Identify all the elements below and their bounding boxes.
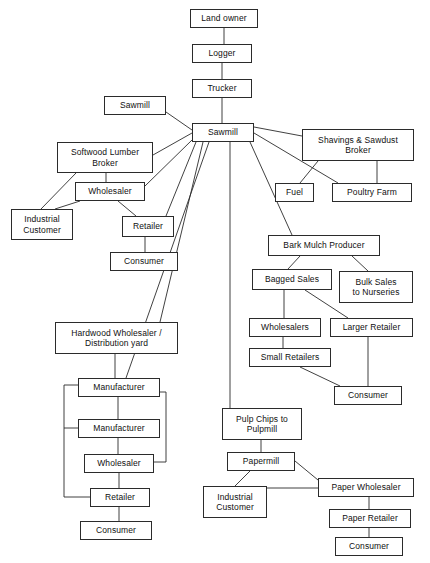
node-sawmill_hub[interactable]: Sawmill: [192, 123, 254, 142]
node-sawmill_small[interactable]: Sawmill: [104, 96, 166, 115]
node-retailer_hw[interactable]: Retailer: [90, 488, 150, 507]
node-consumer_bm[interactable]: Consumer: [334, 386, 402, 405]
node-bagged_sales[interactable]: Bagged Sales: [252, 269, 332, 290]
node-larger_retailer[interactable]: Larger Retailer: [330, 318, 413, 337]
connector-shavings_broker-to-fuel: [300, 161, 318, 183]
node-wholesaler_sw[interactable]: Wholesaler: [75, 182, 145, 201]
node-logger[interactable]: Logger: [192, 44, 252, 63]
connector-sawmill_hub-to-softwood_broker: [153, 133, 192, 155]
node-fuel[interactable]: Fuel: [275, 183, 314, 202]
node-industrial_cust_1[interactable]: Industrial Customer: [11, 209, 73, 240]
node-paper_retailer[interactable]: Paper Retailer: [329, 509, 411, 528]
node-bulk_sales[interactable]: Bulk Sales to Nurseries: [339, 271, 413, 303]
node-pulp_chips[interactable]: Pulp Chips to Pulpmill: [222, 408, 302, 440]
node-papermill[interactable]: Papermill: [227, 452, 295, 471]
connector-manufacturer_1-to-retailer_hw: [64, 385, 90, 497]
connector-papermill-to-industrial_cust_2: [235, 471, 250, 486]
flowchart-canvas: Land ownerLoggerTruckerSawmillSawmillSha…: [0, 0, 430, 563]
node-paper_wholesaler[interactable]: Paper Wholesaler: [318, 478, 414, 497]
node-wholesalers_bm[interactable]: Wholesalers: [249, 318, 321, 337]
node-bark_mulch[interactable]: Bark Mulch Producer: [268, 235, 380, 256]
node-wholesaler_hw[interactable]: Wholesaler: [84, 454, 154, 473]
node-hardwood_ws[interactable]: Hardwood Wholesaler / Distribution yard: [55, 322, 178, 354]
node-poultry_farm[interactable]: Poultry Farm: [332, 183, 412, 202]
node-land_owner[interactable]: Land owner: [190, 9, 258, 28]
connector-wholesaler_sw-to-retailer_sw: [118, 201, 136, 216]
node-manufacturer_2[interactable]: Manufacturer: [78, 419, 160, 438]
node-consumer_sw[interactable]: Consumer: [110, 252, 178, 271]
node-small_retailers[interactable]: Small Retailers: [249, 348, 331, 367]
node-industrial_cust_2[interactable]: Industrial Customer: [203, 486, 267, 518]
node-consumer_paper[interactable]: Consumer: [335, 537, 403, 556]
node-trucker[interactable]: Trucker: [192, 79, 252, 98]
connector-bark_mulch-to-bulk_sales: [352, 256, 368, 271]
connector-bark_mulch-to-bagged_sales: [288, 256, 300, 269]
connector-wholesaler_sw-to-industrial_cust_1: [55, 201, 80, 209]
connector-softwood_broker-to-industrial_cust_1: [41, 173, 76, 209]
node-softwood_broker[interactable]: Softwood Lumber Broker: [57, 142, 153, 173]
node-retailer_sw[interactable]: Retailer: [122, 216, 174, 237]
connector-papermill-to-paper_wholesaler: [295, 461, 318, 480]
connector-small_retailers-to-consumer_bm: [300, 367, 340, 386]
connector-sawmill_hub-to-shavings_broker: [254, 127, 302, 136]
node-consumer_hw[interactable]: Consumer: [80, 521, 152, 540]
node-manufacturer_1[interactable]: Manufacturer: [78, 378, 160, 397]
connector-sawmill_hub-to-retailer_sw: [166, 142, 196, 216]
connector-sawmill_small-to-sawmill_hub: [166, 112, 192, 130]
node-shavings_broker[interactable]: Shavings & Sawdust Broker: [302, 129, 414, 161]
